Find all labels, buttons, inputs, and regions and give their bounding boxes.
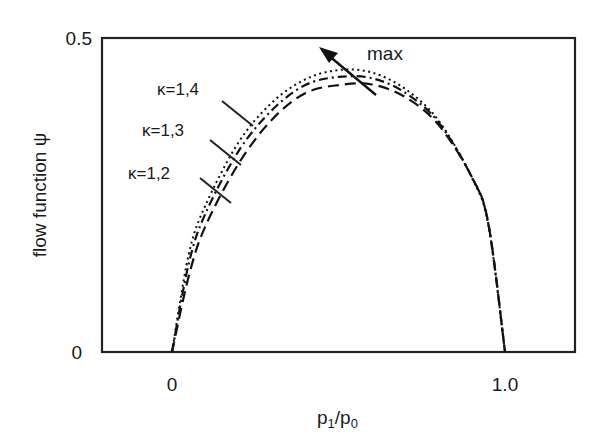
curve-dashed xyxy=(172,83,505,352)
curves xyxy=(172,69,505,352)
leader-line-kappa-1.4 xyxy=(222,101,253,126)
x-axis-label: p1/p0 xyxy=(317,407,358,431)
label-kappa-1.3: κ=1,3 xyxy=(142,121,184,140)
max-label: max xyxy=(367,43,403,64)
chart-canvas: 0.5 0 0 1.0 p1/p0 flow function ψ κ=1,4 … xyxy=(0,0,600,442)
x-tick-0: 0 xyxy=(167,374,178,395)
y-tick-0: 0 xyxy=(71,342,82,363)
x-tick-1.0: 1.0 xyxy=(492,374,518,395)
leader-line-kappa-1.3 xyxy=(210,140,241,165)
label-kappa-1.4: κ=1,4 xyxy=(157,80,199,99)
y-tick-0.5: 0.5 xyxy=(66,28,92,49)
curve-dash-dot xyxy=(172,76,505,352)
y-axis-label: flow function ψ xyxy=(29,133,50,257)
leader-line-kappa-1.2 xyxy=(200,178,231,203)
curve-dotted xyxy=(172,69,505,352)
label-kappa-1.2: κ=1,2 xyxy=(128,164,170,183)
